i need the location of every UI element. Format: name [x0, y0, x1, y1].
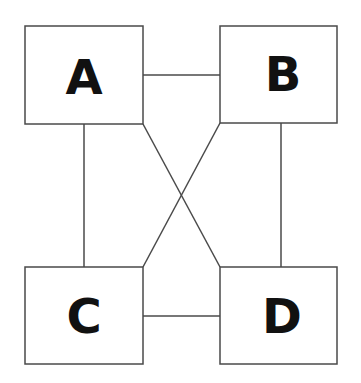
- graph-diagram: A B C D: [0, 0, 361, 383]
- node-a-label: A: [65, 49, 102, 105]
- node-b: B: [220, 26, 337, 123]
- node-c-label: C: [66, 288, 101, 344]
- node-d: D: [220, 267, 337, 364]
- node-b-label: B: [265, 46, 302, 102]
- node-c: C: [25, 267, 143, 364]
- node-a: A: [25, 26, 143, 124]
- node-d-label: D: [262, 288, 302, 344]
